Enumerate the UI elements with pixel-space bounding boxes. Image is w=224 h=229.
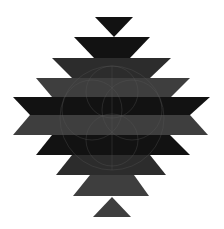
band-2 [52, 58, 171, 78]
band-4 [13, 97, 210, 115]
band-6 [36, 135, 190, 155]
band-7 [56, 155, 166, 175]
stepped-diamond-artwork [0, 0, 224, 229]
band-3 [36, 78, 190, 97]
